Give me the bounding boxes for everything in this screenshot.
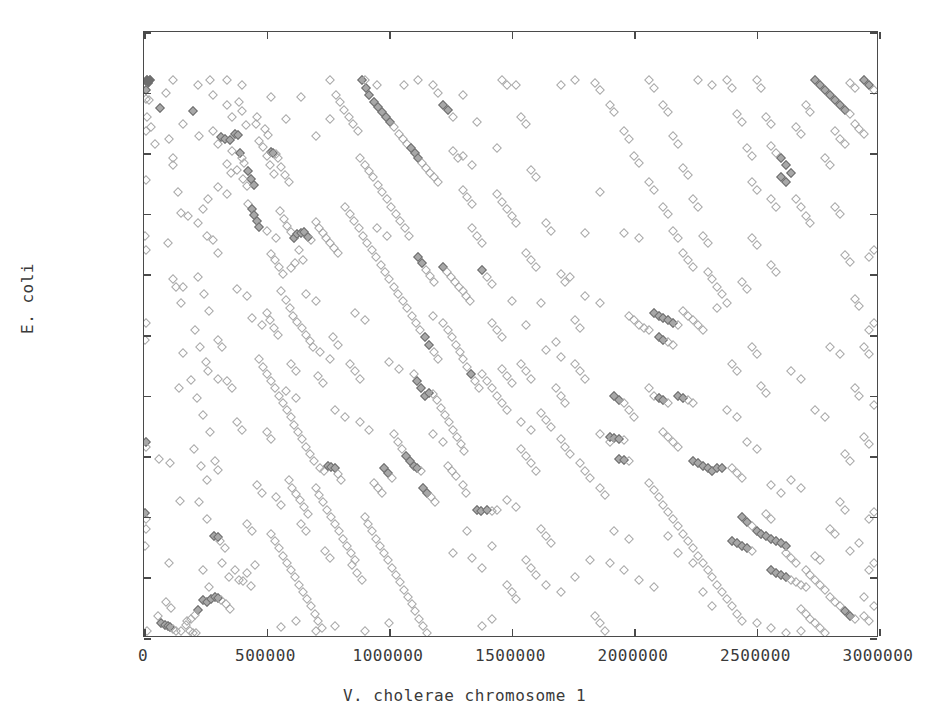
scatter-point <box>845 546 855 556</box>
scatter-point <box>580 228 590 238</box>
x-axis-tick-top <box>757 32 759 39</box>
scatter-point <box>273 330 283 340</box>
y-axis-tick <box>144 335 151 337</box>
scatter-point <box>565 449 575 459</box>
scatter-point <box>242 291 252 301</box>
scatter-point <box>144 541 150 551</box>
scatter-point <box>511 594 521 604</box>
x-axis-tick <box>267 629 269 636</box>
scatter-point <box>551 337 561 347</box>
scatter-point <box>854 391 864 401</box>
scatter-point <box>399 80 409 90</box>
scatter-point <box>222 100 232 110</box>
scatter-point <box>747 151 757 161</box>
scatter-point <box>394 364 404 374</box>
scatter-point <box>634 575 644 585</box>
y-axis-tick <box>144 577 151 579</box>
scatter-point <box>164 558 174 568</box>
scatter-point <box>732 412 742 422</box>
scatter-point <box>384 619 394 629</box>
y-axis-tick-right <box>870 456 877 458</box>
scatter-point <box>276 500 286 510</box>
scatter-point <box>276 622 286 632</box>
scatter-point <box>781 628 791 636</box>
scatter-point <box>477 621 487 631</box>
x-axis-tick <box>512 629 514 636</box>
scatter-point <box>266 92 276 102</box>
scatter-points-layer <box>144 32 877 636</box>
scatter-point <box>198 565 208 575</box>
x-axis-tick-top <box>634 32 636 39</box>
scatter-point <box>186 375 196 385</box>
scatter-point <box>382 231 392 241</box>
x-axis-tick-label: 0 <box>138 646 148 665</box>
scatter-point <box>247 526 257 536</box>
scatter-point <box>712 303 722 313</box>
scatter-point <box>771 267 781 277</box>
scatter-point <box>204 582 214 592</box>
scatter-point <box>413 76 423 86</box>
scatter-point <box>360 626 370 636</box>
y-axis-tick <box>144 274 151 276</box>
scatter-point <box>325 354 335 364</box>
scatter-point <box>213 374 223 384</box>
scatter-point <box>796 202 806 212</box>
scatter-point <box>521 119 531 129</box>
y-axis-tick <box>144 214 151 216</box>
dot-plot-figure: E. coli 05000001000000150000020000002500… <box>0 0 929 723</box>
scatter-point <box>208 236 218 246</box>
scatter-point <box>717 463 727 473</box>
scatter-point <box>222 189 232 199</box>
scatter-point <box>257 320 267 330</box>
scatter-point <box>629 412 639 422</box>
scatter-point <box>786 475 796 485</box>
scatter-point <box>649 582 659 592</box>
scatter-point <box>619 228 629 238</box>
scatter-point <box>183 211 193 221</box>
plot-area <box>143 31 878 637</box>
scatter-point <box>585 473 595 483</box>
scatter-point <box>337 475 347 485</box>
scatter-point <box>752 185 762 195</box>
y-axis-tick <box>144 396 151 398</box>
y-axis-tick <box>144 153 151 155</box>
scatter-point <box>433 88 443 98</box>
y-axis-tick-right <box>870 93 877 95</box>
scatter-point <box>835 349 845 359</box>
scatter-point <box>825 342 835 352</box>
scatter-point <box>198 204 208 214</box>
scatter-point <box>845 109 855 119</box>
scatter-point <box>536 299 546 309</box>
scatter-point <box>333 340 343 350</box>
scatter-point <box>193 272 203 282</box>
scatter-point <box>195 342 205 352</box>
scatter-point <box>192 393 202 403</box>
scatter-point <box>166 459 176 469</box>
scatter-point <box>526 374 536 384</box>
scatter-point <box>810 405 820 415</box>
scatter-point <box>649 83 659 93</box>
scatter-point <box>175 496 185 506</box>
scatter-point <box>634 233 644 243</box>
scatter-point <box>752 619 762 629</box>
scatter-point <box>193 80 203 90</box>
scatter-point <box>438 437 448 447</box>
scatter-point <box>291 366 301 376</box>
scatter-point <box>600 626 610 636</box>
scatter-point <box>428 311 438 321</box>
x-axis-tick <box>879 629 881 636</box>
scatter-point <box>213 248 223 258</box>
scatter-point <box>430 497 440 507</box>
scatter-point <box>416 466 426 476</box>
scatter-point <box>722 299 732 309</box>
scatter-point <box>194 131 204 141</box>
scatter-point <box>805 219 815 229</box>
y-axis-title: E. coli <box>18 263 37 334</box>
scatter-point <box>570 76 580 86</box>
x-axis-tick <box>634 629 636 636</box>
scatter-point <box>291 393 301 403</box>
scatter-point <box>201 357 211 367</box>
scatter-point <box>210 456 220 466</box>
scatter-point <box>487 614 497 624</box>
scatter-point <box>805 107 815 117</box>
